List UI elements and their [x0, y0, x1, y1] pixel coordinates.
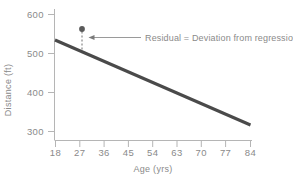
- y-axis-title: Distance (ft): [3, 64, 13, 116]
- x-axis-title: Age (yrs): [133, 164, 172, 174]
- x-tick-label-84: 84: [245, 147, 256, 158]
- x-tick-label-18: 18: [50, 147, 61, 158]
- y-tick-label-500: 500: [27, 48, 44, 59]
- x-tick-label-77: 77: [220, 147, 231, 158]
- x-tick-label-45: 45: [123, 147, 134, 158]
- y-tick-label-300: 300: [27, 126, 44, 137]
- chart-canvas: 600 500 400 300 Distance (ft) 18 27 36 4…: [0, 0, 293, 181]
- x-tick-label-63: 63: [171, 147, 182, 158]
- annotation-arrow-icon: [89, 35, 95, 40]
- y-tick-label-600: 600: [27, 9, 44, 20]
- y-tick-label-400: 400: [27, 87, 44, 98]
- x-tick-label-27: 27: [74, 147, 85, 158]
- observed-data-point: [79, 26, 85, 32]
- x-tick-label-36: 36: [98, 147, 109, 158]
- x-tick-label-54: 54: [147, 147, 158, 158]
- y-axis: 600 500 400 300 Distance (ft): [3, 9, 55, 140]
- regression-line: [55, 40, 251, 125]
- x-axis: 18 27 36 45 54 63 70 77 84 Age (yrs): [50, 141, 256, 175]
- residual-scatter-chart: 600 500 400 300 Distance (ft) 18 27 36 4…: [0, 0, 293, 181]
- x-tick-label-70: 70: [196, 147, 207, 158]
- residual-annotation: Residual = Deviation from regression lin…: [89, 33, 294, 43]
- annotation-label: Residual = Deviation from regression lin…: [145, 33, 293, 43]
